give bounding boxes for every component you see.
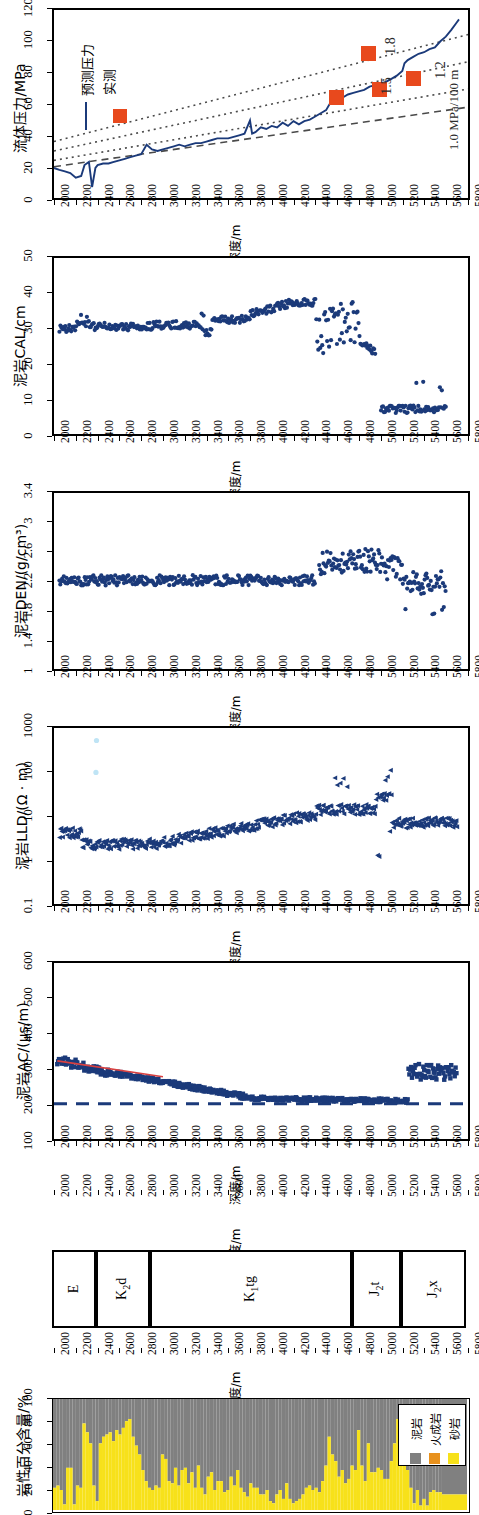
depth-tick-label: 4800	[364, 1332, 376, 1355]
depth-tick-label: 2000	[59, 655, 71, 678]
depth-tick-mark	[315, 1348, 316, 1353]
depth-tick-mark	[424, 436, 425, 441]
depth-tick-mark	[294, 200, 295, 205]
depth-tick-label: 5800	[473, 1174, 479, 1197]
depth-tick-mark	[468, 1190, 469, 1195]
depth-tick-mark	[250, 906, 251, 911]
depth-tick-mark	[272, 436, 273, 441]
depth-tick-label: 3600	[233, 420, 245, 443]
depth-tick-mark	[250, 436, 251, 441]
depth-tick-label: 2600	[124, 1332, 136, 1355]
depth-tick-label: 4200	[299, 1125, 311, 1148]
depth-tick-label: 3600	[233, 1174, 245, 1197]
stratigraphy-unit: K1tg	[150, 1250, 352, 1328]
depth-tick-mark	[359, 200, 360, 205]
depth-tick-label: 5600	[451, 890, 463, 913]
panel-mudstone-lld: 泥岩LLD/(Ω · m) 0.11101001000 200022002400…	[0, 718, 479, 950]
legend-swatch-igneous	[429, 1453, 440, 1464]
depth-tick-mark	[294, 436, 295, 441]
depth-tick-label: 4200	[299, 890, 311, 913]
depth-tick-label: 5000	[386, 184, 398, 207]
depth-tick-mark	[403, 436, 404, 441]
depth-tick-label: 3000	[168, 420, 180, 443]
depth-tick-label: 3600	[233, 1125, 245, 1148]
depth-tick-label: 4200	[299, 655, 311, 678]
value-tick-mark	[47, 1141, 52, 1142]
depth-tick-label: 3600	[233, 655, 245, 678]
depth-tick-mark	[98, 200, 99, 205]
depth-tick-mark	[163, 1141, 164, 1146]
value-tick-label: 600	[21, 941, 36, 981]
depth-tick-mark	[141, 200, 142, 205]
depth-tick-label: 5400	[429, 1332, 441, 1355]
depth-tick-label: 3800	[255, 1125, 267, 1148]
depth-tick-mark	[207, 1141, 208, 1146]
depth-tick-label: 4200	[299, 1174, 311, 1197]
depth-tick-label: 2800	[146, 890, 158, 913]
depth-tick-mark	[468, 200, 469, 205]
depth-tick-mark	[294, 1190, 295, 1195]
depth-tick-label: 5200	[408, 890, 420, 913]
depth-tick-label: 3800	[255, 420, 267, 443]
depth-tick-mark	[424, 671, 425, 676]
depth-tick-mark	[294, 671, 295, 676]
depth-tick-label: 5200	[408, 184, 420, 207]
depth-tick-label: 5800	[473, 1125, 479, 1148]
depth-tick-mark	[294, 1348, 295, 1353]
depth-tick-label: 5800	[473, 420, 479, 443]
depth-tick-mark	[403, 1141, 404, 1146]
depth-tick-label: 3800	[255, 1174, 267, 1197]
depth-tick-mark	[381, 1348, 382, 1353]
panel-mudstone-lld-plot	[52, 726, 470, 906]
value-tick-mark	[47, 436, 52, 437]
depth-tick-mark	[337, 436, 338, 441]
depth-tick-label: 4600	[342, 184, 354, 207]
depth-tick-mark	[141, 1141, 142, 1146]
depth-tick-label: 4800	[364, 184, 376, 207]
depth-tick-label: 5400	[429, 184, 441, 207]
depth-tick-label: 2600	[124, 420, 136, 443]
depth-tick-mark	[403, 906, 404, 911]
depth-tick-mark	[315, 1190, 316, 1195]
depth-tick-label: 3400	[212, 184, 224, 207]
depth-tick-label: 5000	[386, 420, 398, 443]
depth-tick-mark	[468, 906, 469, 911]
depth-tick-mark	[207, 436, 208, 441]
depth-tick-mark	[119, 906, 120, 911]
depth-tick-mark	[54, 1190, 55, 1195]
depth-tick-mark	[76, 1348, 77, 1353]
depth-tick-mark	[185, 1141, 186, 1146]
depth-tick-label: 2600	[124, 184, 136, 207]
depth-tick-mark	[359, 906, 360, 911]
legend-swatch-sandstone	[448, 1453, 459, 1464]
depth-tick-mark	[250, 1141, 251, 1146]
depth-tick-mark	[228, 671, 229, 676]
depth-tick-label: 4200	[299, 184, 311, 207]
panel-mudstone-den-plot	[52, 491, 470, 671]
depth-tick-mark	[228, 1141, 229, 1146]
data-points	[57, 768, 459, 859]
depth-tick-label: 4200	[299, 420, 311, 443]
depth-tick-mark	[468, 671, 469, 676]
depth-tick-mark	[250, 1190, 251, 1195]
depth-tick-label: 3800	[255, 890, 267, 913]
depth-tick-mark	[446, 671, 447, 676]
depth-tick-mark	[207, 200, 208, 205]
data-points	[57, 547, 447, 616]
depth-tick-mark	[337, 200, 338, 205]
depth-tick-mark	[76, 671, 77, 676]
depth-tick-label: 5800	[473, 1332, 479, 1355]
stratigraphy-unit-label: J2x	[424, 1280, 442, 1297]
depth-tick-mark	[294, 1141, 295, 1146]
depth-tick-mark	[119, 1141, 120, 1146]
depth-tick-mark	[54, 671, 55, 676]
depth-tick-label: 4600	[342, 1332, 354, 1355]
depth-tick-label: 4400	[320, 1125, 332, 1148]
depth-tick-mark	[163, 200, 164, 205]
depth-tick-label: 3800	[255, 184, 267, 207]
depth-tick-mark	[76, 1141, 77, 1146]
depth-tick-label: 2200	[81, 1174, 93, 1197]
depth-tick-label: 2400	[103, 1174, 115, 1197]
depth-tick-label: 2000	[59, 1125, 71, 1148]
depth-tick-label: 3200	[190, 420, 202, 443]
